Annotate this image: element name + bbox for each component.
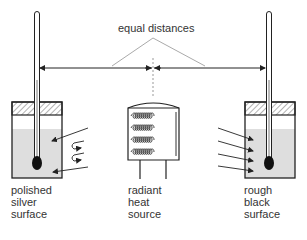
right-surface-label: rough black surface [244,184,280,220]
label-line: black [244,196,280,208]
label-line: silver [11,196,52,208]
label-line: rough [244,184,280,196]
label-line: radiant [128,184,162,196]
annotation-label: equal distances [118,22,194,34]
heater-coil-icon [128,103,179,179]
source-label: radiant heat source [128,184,162,220]
label-line: surface [11,208,52,220]
left-surface-label: polished silver surface [11,184,52,220]
label-line: source [128,208,162,220]
label-line: polished [11,184,52,196]
annotation-leader-lines [112,38,205,66]
label-line: surface [244,208,280,220]
label-line: heat [128,196,162,208]
